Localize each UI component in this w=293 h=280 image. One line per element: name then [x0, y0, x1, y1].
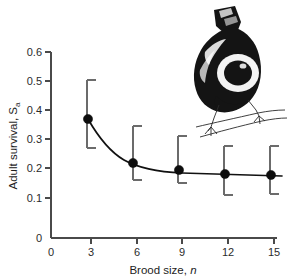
- x-axis-title-italic: n: [190, 264, 196, 276]
- y-tick-label: 0: [36, 232, 42, 244]
- data-point: [266, 170, 275, 179]
- y-tick-label: 0.5: [27, 75, 42, 87]
- data-point: [83, 114, 92, 123]
- x-axis-ticks: [91, 238, 274, 244]
- x-tick-label: 15: [268, 246, 280, 258]
- x-tick-label: 3: [88, 246, 94, 258]
- y-tick-label: 0.3: [27, 133, 42, 145]
- x-axis-title-main: Brood size,: [129, 264, 190, 276]
- y-axis-title-subscript: a: [13, 102, 22, 107]
- y-tick-label: 0.2: [27, 162, 42, 174]
- y-axis-ticks: [45, 52, 51, 198]
- x-tick-label: 0: [48, 246, 54, 258]
- figure-panel: 0.6 0.5 0.4 0.3 0.2 0.1 0 0 3 6 9 12 15 …: [0, 0, 293, 280]
- x-tick-label: 6: [134, 246, 140, 258]
- bird-illustration: [194, 6, 287, 137]
- error-bar: [178, 136, 187, 183]
- y-axis-title-main: Adult survival, S: [7, 107, 19, 190]
- data-point: [174, 165, 183, 174]
- chart-canvas: 0.6 0.5 0.4 0.3 0.2 0.1 0 0 3 6 9 12 15 …: [0, 0, 293, 280]
- error-bar: [270, 146, 279, 194]
- x-axis-title: Brood size, n: [129, 264, 196, 276]
- y-axis-tick-labels: 0.6 0.5 0.4 0.3 0.2 0.1 0: [27, 46, 42, 244]
- data-point: [220, 169, 229, 178]
- data-point: [128, 158, 137, 167]
- x-tick-label: 12: [222, 246, 234, 258]
- fitted-curve: [88, 119, 282, 176]
- error-bar: [87, 80, 96, 148]
- y-tick-label: 0.1: [27, 192, 42, 204]
- x-tick-label: 9: [179, 246, 185, 258]
- y-tick-label: 0.6: [27, 46, 42, 58]
- x-axis-tick-labels: 0 3 6 9 12 15: [48, 246, 280, 258]
- error-bar: [133, 126, 142, 180]
- y-axis-title: Adult survival, Sa: [7, 102, 22, 189]
- y-tick-label: 0.4: [27, 104, 42, 116]
